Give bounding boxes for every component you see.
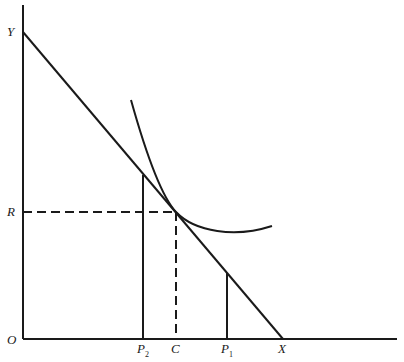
budget-line	[23, 32, 283, 339]
label-p2-sub: 2	[145, 350, 149, 359]
diagram-canvas	[0, 0, 404, 362]
label-y-intercept: Y	[7, 25, 14, 38]
label-p1: P1	[221, 342, 233, 359]
label-origin: O	[7, 333, 16, 346]
label-p1-sub: 1	[229, 350, 233, 359]
label-p2: P2	[137, 342, 149, 359]
label-r: R	[7, 205, 15, 218]
label-p1-main: P	[221, 341, 229, 356]
label-c: C	[171, 342, 180, 355]
label-p2-main: P	[137, 341, 145, 356]
label-x-intercept: X	[278, 342, 286, 355]
